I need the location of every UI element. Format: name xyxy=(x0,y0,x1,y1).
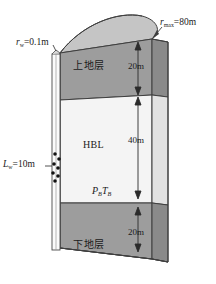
label-hbl: HBL xyxy=(83,140,104,150)
hbl-body xyxy=(60,95,168,205)
label-max-radius: rmax=80m xyxy=(160,18,196,28)
lw-value: =10m xyxy=(13,159,35,169)
wellbore xyxy=(52,50,60,250)
tb-subscript: B xyxy=(107,190,111,197)
wellbore-schematic-figure: rw=0.1m rmax=80m Lw=10m 上地层 HBL 下地层 PBTB… xyxy=(0,0,216,284)
label-lower-formation: 下地层 xyxy=(73,240,105,250)
rw-subscript: w xyxy=(20,42,24,48)
rmax-subscript: max xyxy=(164,22,174,28)
rw-leader-line xyxy=(53,45,56,51)
rw-value: =0.1m xyxy=(24,37,49,47)
label-well-length: Lw=10m xyxy=(3,160,35,170)
dimension-middle-thickness: 40m xyxy=(128,136,144,145)
dimension-lower-thickness: 20m xyxy=(128,228,144,237)
pb-subscript: B xyxy=(98,190,102,197)
label-well-radius: rw=0.1m xyxy=(16,38,49,48)
lower-formation-body xyxy=(60,203,168,262)
dimension-upper-thickness: 20m xyxy=(128,62,144,71)
label-upper-formation: 上地层 xyxy=(73,61,105,71)
lw-subscript: w xyxy=(8,164,12,170)
rmax-value: =80m xyxy=(174,17,196,27)
label-boundary-condition: PBTB xyxy=(92,186,111,196)
